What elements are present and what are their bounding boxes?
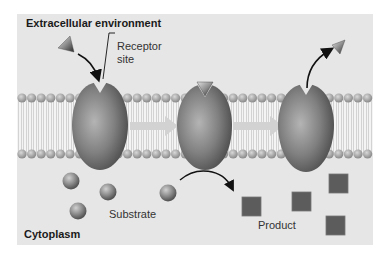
receptor-site-label-line1: Receptor [117, 40, 162, 53]
receptor-protein-1 [72, 80, 128, 170]
receptor-site-label: Receptor site [117, 40, 162, 66]
substrate-label: Substrate [109, 208, 156, 221]
receptor-site-label-line2: site [117, 53, 162, 66]
cytoplasm-label: Cytoplasm [24, 228, 80, 240]
extracellular-label: Extracellular environment [26, 17, 161, 29]
diagram-canvas [0, 0, 392, 255]
receptor-protein-3 [278, 82, 334, 172]
product-label: Product [258, 219, 296, 232]
